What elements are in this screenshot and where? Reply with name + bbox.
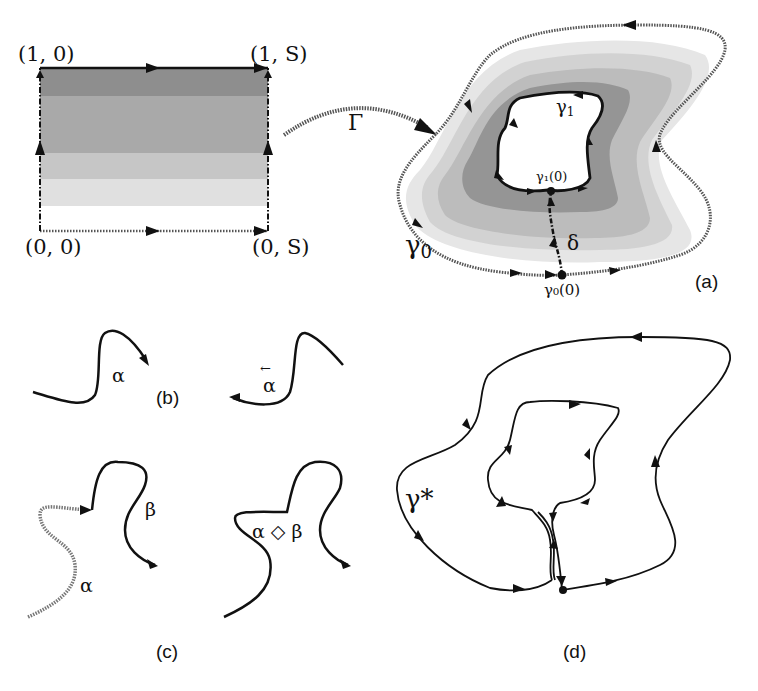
gamma1-subscript: 1 bbox=[567, 105, 575, 119]
homotopy-diagram bbox=[0, 0, 758, 691]
panel-d-label: (d) bbox=[563, 642, 586, 661]
alpha-reversed-label: α bbox=[263, 376, 276, 395]
gamma-map-label: Γ bbox=[348, 112, 363, 134]
corner-label-top-left: (1, 0) bbox=[18, 44, 74, 65]
delta-label: δ bbox=[567, 233, 579, 253]
panel-b-label: (b) bbox=[156, 388, 179, 407]
gamma-star-label: γ* bbox=[405, 486, 434, 512]
gamma0-subscript: 0 bbox=[421, 241, 432, 262]
gamma0-start-label: γ₀(0) bbox=[544, 283, 580, 298]
corner-label-bottom-right: (0, S) bbox=[252, 237, 309, 258]
gamma1-label: γ1 bbox=[556, 98, 574, 118]
beta-label: β bbox=[145, 500, 156, 519]
corner-label-bottom-left: (0, 0) bbox=[25, 237, 81, 258]
alpha-reversed-bar: ← bbox=[260, 362, 271, 375]
alpha-reversed-curve bbox=[229, 333, 343, 404]
alpha-curve bbox=[33, 331, 149, 403]
gamma1-start-label: γ₁(0) bbox=[536, 170, 567, 183]
gamma0-label: γ0 bbox=[405, 232, 432, 261]
alpha-dotted-curve bbox=[28, 505, 92, 617]
gamma-star-curve bbox=[397, 332, 730, 594]
corner-label-top-right: (1, S) bbox=[250, 44, 307, 65]
alpha-beta-concat-label: α ◇ β bbox=[252, 522, 303, 541]
alpha-label-c: α bbox=[80, 576, 93, 595]
alpha-label-b: α bbox=[112, 366, 125, 385]
panel-a-label: (a) bbox=[695, 272, 718, 291]
gamma0-symbol: γ bbox=[405, 230, 421, 260]
parameter-rectangle bbox=[35, 63, 273, 236]
gamma1-symbol: γ bbox=[556, 96, 567, 117]
panel-c-label: (c) bbox=[156, 642, 178, 661]
